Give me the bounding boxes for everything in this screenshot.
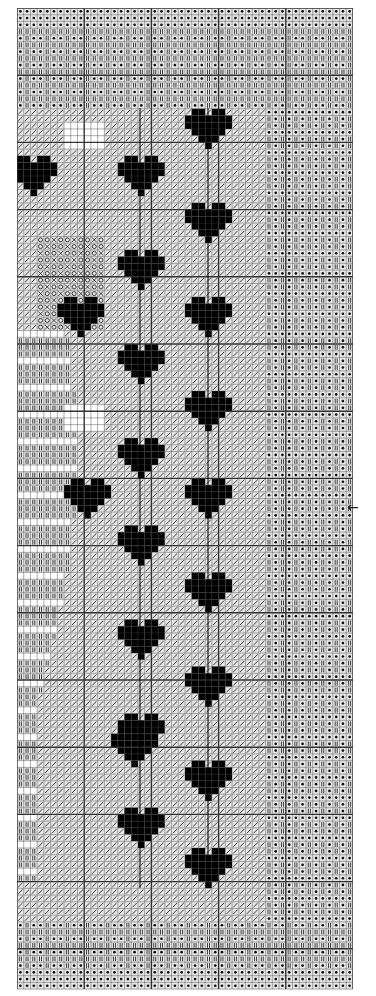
center-arrow-icon: ←: [347, 500, 359, 514]
cross-stitch-chart: [17, 8, 353, 990]
